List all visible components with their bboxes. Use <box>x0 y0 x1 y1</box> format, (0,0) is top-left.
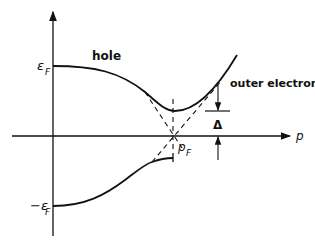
upper-branch-curve <box>53 55 237 111</box>
pf-subscript: F <box>186 148 192 158</box>
pf-label: p <box>177 140 186 154</box>
gap-label: Δ <box>213 118 223 132</box>
outer-electron-label: outer electron <box>230 77 315 90</box>
dashed-line-descending <box>145 92 182 148</box>
momentum-axis-label: p <box>295 129 304 143</box>
ef-subscript: F <box>45 67 51 77</box>
hole-label: hole <box>92 49 121 63</box>
minus-ef-subscript: F <box>45 207 51 217</box>
ef-label: ε <box>37 58 44 73</box>
dispersion-diagram: hole outer electron Δ p p F ε F −ε F <box>0 0 315 247</box>
lower-branch-curve <box>53 158 173 206</box>
